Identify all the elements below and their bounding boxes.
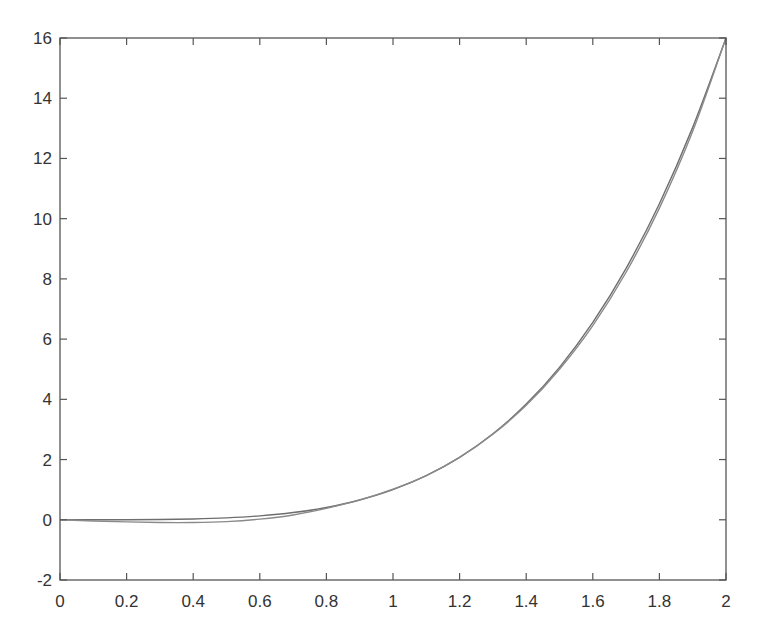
y-tick-label: 12: [33, 149, 52, 168]
y-tick-label: 2: [43, 451, 52, 470]
x-axis-tick-labels: 00.20.40.60.811.21.41.61.82: [55, 592, 730, 611]
plot-area: [60, 38, 726, 580]
x-tick-label: 0.8: [315, 592, 339, 611]
y-tick-label: -2: [37, 571, 52, 590]
y-tick-label: 14: [33, 89, 52, 108]
x-tick-label: 1.6: [581, 592, 605, 611]
x-tick-label: 1.4: [514, 592, 538, 611]
x-tick-label: 2: [721, 592, 730, 611]
x-tick-label: 0: [55, 592, 64, 611]
y-axis-tick-labels: -20246810121416: [33, 29, 52, 590]
x-tick-label: 1: [388, 592, 397, 611]
x-tick-label: 0.4: [181, 592, 205, 611]
y-tick-label: 4: [43, 390, 52, 409]
y-tick-label: 6: [43, 330, 52, 349]
x-tick-label: 0.6: [248, 592, 272, 611]
x-tick-label: 0.2: [115, 592, 139, 611]
line-chart: 00.20.40.60.811.21.41.61.82 -20246810121…: [0, 0, 762, 637]
x-tick-label: 1.8: [648, 592, 672, 611]
y-tick-label: 16: [33, 29, 52, 48]
y-tick-label: 10: [33, 210, 52, 229]
x-tick-label: 1.2: [448, 592, 472, 611]
y-tick-label: 0: [43, 511, 52, 530]
y-tick-label: 8: [43, 270, 52, 289]
